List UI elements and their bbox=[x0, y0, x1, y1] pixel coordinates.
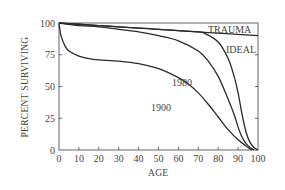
x-tick-label: 50 bbox=[154, 153, 164, 164]
x-tick-label: 10 bbox=[74, 153, 84, 164]
survival-chart: 0255075100 0102030405060708090100 TRAUMA… bbox=[0, 0, 285, 190]
y-tick-label: 0 bbox=[50, 145, 55, 156]
x-tick-label: 40 bbox=[134, 153, 144, 164]
y-axis: 0255075100 bbox=[40, 18, 258, 156]
x-tick-label: 30 bbox=[114, 153, 124, 164]
label-ideal: IDEAL bbox=[226, 44, 256, 55]
label-1900: 1900 bbox=[151, 102, 171, 113]
y-tick-label: 100 bbox=[40, 18, 55, 29]
x-tick-label: 80 bbox=[213, 153, 223, 164]
curve-1980 bbox=[59, 23, 254, 150]
curve-ideal bbox=[59, 23, 258, 150]
x-axis-title: AGE bbox=[148, 168, 168, 178]
x-tick-label: 20 bbox=[94, 153, 104, 164]
y-axis-title: PERCENT SURVIVING bbox=[20, 36, 30, 137]
x-tick-label: 0 bbox=[57, 153, 62, 164]
x-tick-label: 100 bbox=[251, 153, 266, 164]
x-tick-label: 70 bbox=[193, 153, 203, 164]
label-1980: 1980 bbox=[172, 77, 192, 88]
y-tick-label: 50 bbox=[45, 81, 55, 92]
y-tick-label: 25 bbox=[45, 113, 55, 124]
survival-curves bbox=[59, 23, 258, 150]
x-tick-label: 90 bbox=[233, 153, 243, 164]
plot-frame bbox=[59, 23, 258, 150]
y-tick-label: 75 bbox=[45, 49, 55, 60]
label-trauma: TRAUMA bbox=[208, 24, 252, 35]
x-tick-label: 60 bbox=[173, 153, 183, 164]
